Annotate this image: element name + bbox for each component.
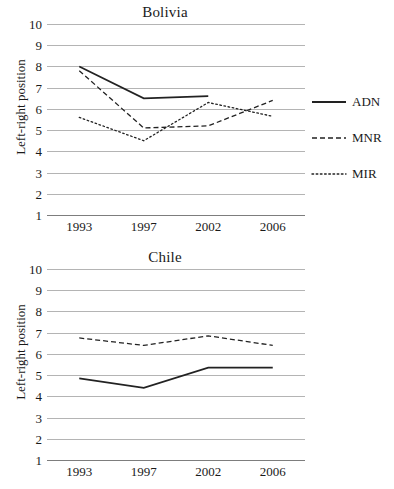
y-axis-label-bolivia: Left-right position	[14, 32, 28, 182]
chart-title-chile: Chile	[0, 249, 330, 265]
y-tick-label-3: 3	[36, 411, 43, 424]
y-tick-label-6: 6	[36, 102, 43, 115]
y-tick-label-9: 9	[36, 284, 43, 297]
y-tick-label-4: 4	[36, 145, 43, 158]
figure-left-right-position: Bolivia Left-right position 10987654321 …	[0, 0, 394, 489]
legend-label-mnr: MNR	[352, 131, 382, 145]
gridline-1	[47, 215, 305, 216]
legend-swatch-adn-icon	[312, 97, 346, 107]
y-tick-label-2: 2	[36, 187, 43, 200]
y-tick-label-1: 1	[36, 454, 43, 467]
y-tick-label-5: 5	[36, 369, 43, 382]
y-tick-label-7: 7	[36, 326, 43, 339]
plot-area-bolivia: 10987654321	[47, 24, 305, 215]
y-tick-label-10: 10	[29, 263, 42, 276]
x-tick-label-1997: 1997	[131, 219, 157, 235]
chart-panel-bolivia: Bolivia Left-right position 10987654321 …	[0, 0, 394, 244]
y-tick-label-7: 7	[36, 81, 43, 94]
x-tick-label-1997: 1997	[131, 464, 157, 480]
y-tick-label-8: 8	[36, 60, 43, 73]
legend-bolivia: ADNMNRMIR	[312, 95, 382, 203]
x-tick-label-2006: 2006	[260, 219, 286, 235]
y-tick-label-9: 9	[36, 39, 43, 52]
y-tick-label-4: 4	[36, 390, 43, 403]
series-layer-bolivia	[47, 24, 305, 215]
chart-panel-chile: Chile Left-right position 10987654321 19…	[0, 245, 394, 489]
gridline-1	[47, 460, 305, 461]
legend-item-mir[interactable]: MIR	[312, 167, 382, 181]
y-tick-label-5: 5	[36, 124, 43, 137]
y-tick-label-1: 1	[36, 209, 43, 222]
series-line-dc	[79, 368, 273, 388]
y-tick-label-10: 10	[29, 18, 42, 31]
series-line-mir	[79, 103, 273, 141]
x-tick-label-1993: 1993	[66, 219, 92, 235]
y-tick-label-6: 6	[36, 347, 43, 360]
legend-label-adn: ADN	[352, 95, 380, 109]
y-axis-label-chile: Left-right position	[14, 277, 28, 427]
legend-item-adn[interactable]: ADN	[312, 95, 382, 109]
series-line-adn	[79, 66, 208, 98]
x-axis-ticks-bolivia: 1993199720022006	[47, 219, 305, 239]
series-line-rn	[79, 336, 273, 346]
x-tick-label-1993: 1993	[66, 464, 92, 480]
x-axis-ticks-chile: 1993199720022006	[47, 464, 305, 484]
x-tick-label-2002: 2002	[195, 219, 221, 235]
x-tick-label-2006: 2006	[260, 464, 286, 480]
y-tick-label-2: 2	[36, 432, 43, 445]
y-tick-label-8: 8	[36, 305, 43, 318]
y-tick-label-3: 3	[36, 166, 43, 179]
legend-label-mir: MIR	[352, 167, 377, 181]
legend-swatch-mnr-icon	[312, 133, 346, 143]
chart-title-bolivia: Bolivia	[0, 4, 330, 20]
legend-item-mnr[interactable]: MNR	[312, 131, 382, 145]
legend-swatch-mir-icon	[312, 169, 346, 179]
series-layer-chile	[47, 269, 305, 460]
plot-area-chile: 10987654321	[47, 269, 305, 460]
series-line-mnr	[79, 71, 273, 128]
x-tick-label-2002: 2002	[195, 464, 221, 480]
